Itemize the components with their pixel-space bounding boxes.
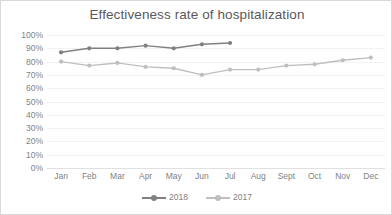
data-point-2017	[172, 66, 176, 70]
x-axis-tick-label: Jan	[54, 171, 68, 182]
y-axis-tick-label: 10%	[1, 150, 43, 159]
plot-area	[47, 35, 385, 168]
data-point-2018	[87, 46, 91, 50]
data-point-2017	[312, 62, 316, 66]
legend-swatch-icon	[206, 193, 230, 202]
y-axis-tick-label: 90%	[1, 44, 43, 53]
data-point-2017	[200, 73, 204, 77]
chart-container: Effectiveness rate of hospitalization 10…	[0, 0, 392, 215]
legend-label: 2017	[233, 193, 252, 202]
data-point-2017	[143, 65, 147, 69]
series-layer	[47, 35, 385, 168]
x-axis-tick-label: Sept	[278, 171, 296, 182]
data-point-2017	[341, 58, 345, 62]
y-axis-tick-label: 100%	[1, 31, 43, 40]
data-point-2017	[284, 63, 288, 67]
data-point-2018	[200, 42, 204, 46]
y-axis-tick-label: 80%	[1, 57, 43, 66]
data-point-2018	[115, 46, 119, 50]
gridline	[47, 168, 385, 169]
x-axis-tick-label: Jun	[195, 171, 209, 182]
data-point-2017	[59, 60, 63, 64]
data-point-2017	[115, 61, 119, 65]
x-axis-tick-label: Jul	[225, 171, 236, 182]
data-point-2018	[59, 50, 63, 54]
data-point-2017	[87, 63, 91, 67]
x-axis-tick-label: Aug	[251, 171, 266, 182]
data-point-2017	[369, 56, 373, 60]
legend-swatch-icon	[142, 193, 166, 202]
legend-label: 2018	[169, 193, 188, 202]
x-axis-tick-label: Nov	[335, 171, 350, 182]
y-axis-tick-label: 60%	[1, 84, 43, 93]
chart-title: Effectiveness rate of hospitalization	[1, 7, 392, 22]
legend-item-2018[interactable]: 2018	[142, 193, 188, 202]
y-axis: 100%90%80%70%60%50%40%30%20%10%0%	[1, 35, 43, 168]
y-axis-tick-label: 50%	[1, 97, 43, 106]
x-axis: JanFebMarAprMayJunJulAugSeptOctNovDec	[47, 171, 385, 185]
x-axis-tick-label: Apr	[139, 171, 152, 182]
data-point-2017	[228, 67, 232, 71]
data-point-2017	[256, 67, 260, 71]
x-axis-tick-label: May	[166, 171, 182, 182]
data-point-2018	[228, 41, 232, 45]
y-axis-tick-label: 0%	[1, 164, 43, 173]
x-axis-tick-label: Dec	[363, 171, 378, 182]
legend-item-2017[interactable]: 2017	[206, 193, 252, 202]
y-axis-tick-label: 30%	[1, 124, 43, 133]
y-axis-tick-label: 20%	[1, 137, 43, 146]
data-point-2018	[172, 46, 176, 50]
x-axis-tick-label: Feb	[82, 171, 97, 182]
chart-legend: 20182017	[1, 193, 392, 202]
x-axis-tick-label: Mar	[110, 171, 125, 182]
data-point-2018	[143, 44, 147, 48]
y-axis-tick-label: 70%	[1, 70, 43, 79]
y-axis-tick-label: 40%	[1, 110, 43, 119]
x-axis-tick-label: Oct	[308, 171, 321, 182]
series-line-2017	[61, 58, 371, 75]
